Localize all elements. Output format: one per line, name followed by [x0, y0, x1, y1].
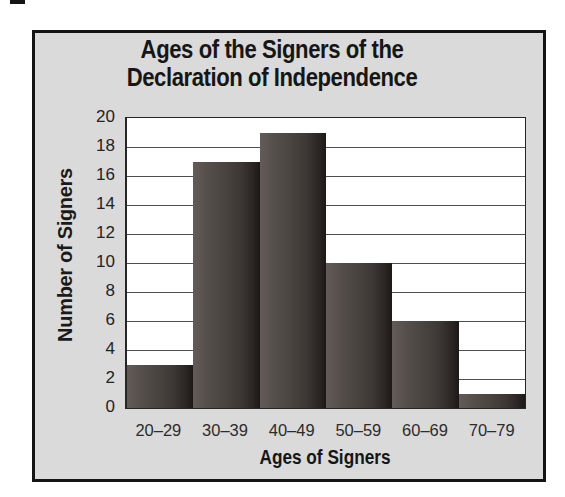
y-tick-label-4: 4	[35, 339, 115, 359]
bar-20–29	[127, 365, 193, 409]
y-tick-label-8: 8	[35, 281, 115, 301]
x-axis-title: Ages of Signers	[161, 445, 489, 469]
y-tick-label-18: 18	[35, 136, 115, 156]
y-tick-label-14: 14	[35, 194, 115, 214]
x-tick-label-70–79: 70–79	[458, 421, 525, 440]
y-tick-label-10: 10	[35, 252, 115, 272]
y-tick-label-0: 0	[35, 397, 115, 417]
x-tick-label-60–69: 60–69	[392, 421, 459, 440]
x-tick-label-30–39: 30–39	[192, 421, 259, 440]
y-tick-label-6: 6	[35, 310, 115, 330]
x-axis-tick-labels: 20–2930–3940–4950–5960–6970–79	[125, 421, 525, 440]
bar-60–69	[392, 321, 458, 408]
chart-title-line2: Declaration of Independence	[56, 63, 488, 91]
bar-70–79	[459, 394, 525, 409]
bar-30–39	[193, 162, 259, 409]
bar-series	[127, 118, 525, 408]
x-tick-label-40–49: 40–49	[258, 421, 325, 440]
chart-title-line1: Ages of the Signers of the	[56, 35, 488, 63]
bar-50–59	[326, 263, 392, 408]
y-tick-label-12: 12	[35, 223, 115, 243]
bar-40–49	[260, 133, 326, 409]
x-tick-label-20–29: 20–29	[125, 421, 192, 440]
x-tick-label-50–59: 50–59	[325, 421, 392, 440]
plot-area	[125, 117, 526, 409]
y-tick-label-2: 2	[35, 368, 115, 388]
chart-panel: Ages of the Signers of the Declaration o…	[32, 30, 546, 482]
y-tick-label-16: 16	[35, 165, 115, 185]
figure-canvas: Ages of the Signers of the Declaration o…	[0, 0, 565, 497]
chart-title: Ages of the Signers of the Declaration o…	[56, 35, 488, 91]
scan-artifact-mark	[10, 0, 25, 4]
y-tick-label-20: 20	[35, 107, 115, 127]
